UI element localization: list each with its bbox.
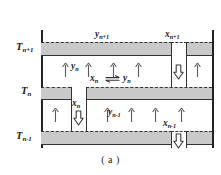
- stream-label-liquid-bottom-sub: n-1: [168, 122, 176, 129]
- stream-label-vapor-stage-n-sub: n: [75, 65, 78, 72]
- liquid-arrow-down-n-minus-1: [173, 133, 184, 149]
- liquid-arrow-down-n-plus-1: [173, 64, 184, 80]
- equilibrium-arrow-icon: [105, 75, 120, 83]
- stream-label-liquid-top: xn+1: [165, 30, 180, 40]
- stage-label-n-minus-1-sub: n-1: [22, 135, 31, 142]
- tray-plate-n-right: [86, 87, 212, 100]
- equilibrium-label-liquid: xn: [90, 74, 98, 84]
- vapor-arrow-up: [152, 107, 159, 122]
- vapor-arrow-up: [52, 107, 59, 122]
- stream-label-vapor-top-sub: n+1: [99, 33, 109, 40]
- stage-label-n-sub: n: [27, 90, 31, 97]
- vapor-arrow-up: [194, 62, 201, 77]
- equilibrium-label-vapor: yn: [123, 74, 131, 84]
- equilibrium-label-vapor-sub: n: [127, 77, 130, 84]
- stream-label-liquid-stage-n-sub: n: [77, 102, 80, 109]
- stream-label-liquid-top-sub: n+1: [170, 33, 180, 40]
- liquid-surface-line-top: [171, 42, 187, 43]
- tray-plate-n-minus-1-left: [41, 131, 172, 145]
- tray-plate-n-plus-1-left: [41, 42, 172, 56]
- equilibrium-label-liquid-sub: n: [95, 77, 98, 84]
- downcomer-wall-n-right: [86, 87, 87, 131]
- vapor-arrow-up: [62, 62, 69, 77]
- tray-plate-n-plus-1-right: [186, 42, 212, 56]
- stream-label-liquid-bottom: xn-1: [163, 119, 176, 129]
- vapor-arrow-up: [135, 62, 142, 77]
- vapor-arrow-up: [128, 107, 135, 122]
- stream-label-vapor-bottom: yn-1: [108, 108, 121, 118]
- liquid-arrow-down-n: [73, 110, 84, 126]
- distillation-tray-diagram: Tn+1 Tn Tn-1 yn+1 xn+1 yn xn yn xn yn-1 …: [0, 0, 221, 175]
- column-wall-right: [212, 30, 214, 148]
- tray-plate-n-left: [41, 87, 71, 100]
- figure-caption: ( a ): [0, 154, 221, 165]
- stage-label-n-plus-1: Tn+1: [16, 42, 33, 54]
- stream-label-liquid-stage-n: xn: [72, 99, 80, 109]
- stage-label-n-plus-1-sub: n+1: [22, 46, 33, 53]
- downcomer-wall-n-plus-1-right: [186, 42, 187, 87]
- vapor-arrow-up: [178, 107, 185, 122]
- stream-label-vapor-top: yn+1: [95, 30, 109, 40]
- downcomer-wall-n-minus-1-right: [186, 131, 187, 148]
- tray-plate-n-minus-1-right: [186, 131, 212, 145]
- stage-label-n-minus-1: Tn-1: [16, 131, 32, 143]
- stage-label-n: Tn: [21, 86, 31, 98]
- stream-label-vapor-stage-n: yn: [71, 62, 79, 72]
- stream-label-vapor-bottom-sub: n-1: [112, 111, 120, 118]
- liquid-surface-line-bottom: [171, 131, 187, 132]
